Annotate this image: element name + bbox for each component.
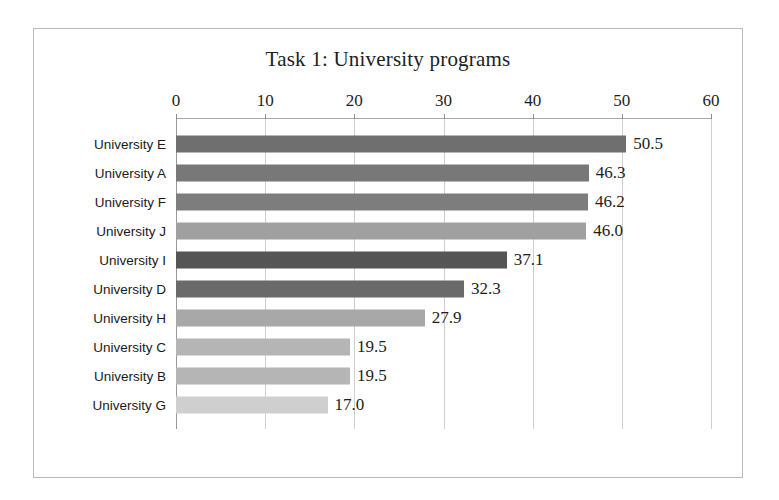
- bar: [176, 193, 588, 210]
- x-tick-label: 20: [346, 91, 363, 111]
- bar-value-label: 19.5: [357, 337, 387, 357]
- category-label: University B: [94, 368, 166, 383]
- bar-value-label: 17.0: [335, 395, 365, 415]
- x-tick-label: 0: [172, 91, 181, 111]
- bar-row: University H27.9: [176, 303, 711, 332]
- bar: [176, 222, 586, 239]
- bar-value-label: 46.2: [595, 192, 625, 212]
- x-tick-label: 50: [613, 91, 630, 111]
- bar-row: University J46.0: [176, 216, 711, 245]
- bar: [176, 309, 425, 326]
- category-label: University A: [95, 165, 166, 180]
- bar: [176, 251, 507, 268]
- category-label: University I: [99, 252, 166, 267]
- x-tick-label: 60: [703, 91, 720, 111]
- bar: [176, 135, 626, 152]
- category-label: University C: [93, 339, 166, 354]
- bar-row: University D32.3: [176, 274, 711, 303]
- x-tick-label: 40: [524, 91, 541, 111]
- bar: [176, 396, 328, 413]
- plot-area: University E50.5University A46.3Universi…: [176, 119, 711, 429]
- bar-row: University G17.0: [176, 390, 711, 419]
- category-label: University E: [94, 136, 166, 151]
- bar-row: University B19.5: [176, 361, 711, 390]
- bar-value-label: 32.3: [471, 279, 501, 299]
- bar-value-label: 19.5: [357, 366, 387, 386]
- category-label: University D: [93, 281, 166, 296]
- bar-value-label: 27.9: [432, 308, 462, 328]
- chart-title: Task 1: University programs: [34, 47, 742, 72]
- bar: [176, 280, 464, 297]
- bar-value-label: 46.0: [593, 221, 623, 241]
- bar: [176, 338, 350, 355]
- bar: [176, 367, 350, 384]
- bar: [176, 164, 589, 181]
- bar-value-label: 46.3: [596, 163, 626, 183]
- category-label: University H: [93, 310, 166, 325]
- bar-row: University A46.3: [176, 158, 711, 187]
- bar-row: University I37.1: [176, 245, 711, 274]
- bar-row: University E50.5: [176, 129, 711, 158]
- bar-value-label: 37.1: [514, 250, 544, 270]
- gridline-60: [711, 119, 712, 429]
- x-tick-label: 30: [435, 91, 452, 111]
- bar-value-label: 50.5: [633, 134, 663, 154]
- category-label: University G: [92, 397, 166, 412]
- chart-frame: Task 1: University programs University E…: [33, 28, 743, 478]
- category-label: University F: [95, 194, 166, 209]
- bar-row: University C19.5: [176, 332, 711, 361]
- bar-row: University F46.2: [176, 187, 711, 216]
- x-tick-label: 10: [257, 91, 274, 111]
- category-label: University J: [96, 223, 166, 238]
